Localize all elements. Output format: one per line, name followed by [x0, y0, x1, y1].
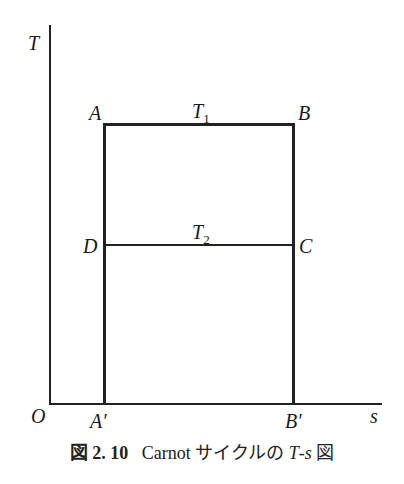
point-b-prime-label: B′: [285, 411, 302, 431]
y-axis: [49, 25, 51, 405]
t2-label: T2: [192, 222, 210, 246]
t1-label: T1: [192, 101, 210, 125]
figure-caption: 図 2. 10 Carnot サイクルの T-s 図: [0, 438, 404, 464]
isentrope-right-line: [292, 123, 295, 405]
x-axis: [49, 403, 382, 405]
point-d-label: D: [83, 236, 97, 256]
origin-label: O: [31, 406, 45, 426]
point-a-prime-label: A′: [90, 411, 107, 431]
caption-text: Carnot サイクルの: [142, 443, 289, 463]
point-a-label: A: [89, 103, 101, 123]
x-axis-label: s: [370, 406, 378, 426]
figure-number: 図 2. 10: [70, 443, 129, 463]
point-b-label: B: [298, 103, 310, 123]
y-axis-label: T: [28, 33, 39, 53]
point-c-label: C: [299, 236, 312, 256]
isentrope-left-line: [103, 123, 106, 405]
